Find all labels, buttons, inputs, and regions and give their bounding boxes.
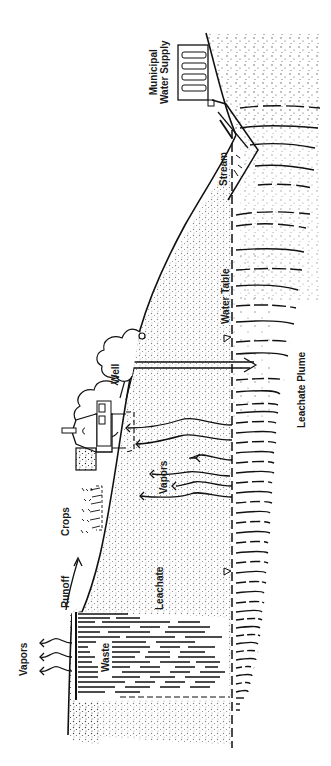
- municipal-water-supply-building: [178, 45, 214, 106]
- label-vapors-surface: Vapors: [18, 643, 29, 676]
- label-stream: Stream: [218, 152, 229, 186]
- label-well: Well: [110, 364, 121, 384]
- label-crops: Crops: [60, 507, 71, 536]
- surface-vapor-arrows: [40, 639, 72, 675]
- diagram-canvas: [0, 0, 331, 766]
- waste-deposit: [72, 612, 230, 702]
- label-vapors-subsurface: Vapors: [158, 461, 169, 494]
- landfill-contamination-diagram: Municipal Water Supply Stream Water Tabl…: [0, 0, 331, 766]
- label-water-supply: Water Supply: [159, 40, 170, 104]
- label-water-table: Water Table: [220, 268, 231, 324]
- crops: [81, 486, 102, 533]
- label-waste: Waste: [100, 643, 111, 672]
- label-municipal: Municipal: [148, 40, 159, 104]
- label-leachate-plume: Leachate Plume: [296, 352, 307, 428]
- label-municipal-water-supply: Municipal Water Supply: [148, 40, 170, 104]
- label-runoff: Runoff: [60, 576, 71, 608]
- label-leachate: Leachate: [154, 567, 165, 610]
